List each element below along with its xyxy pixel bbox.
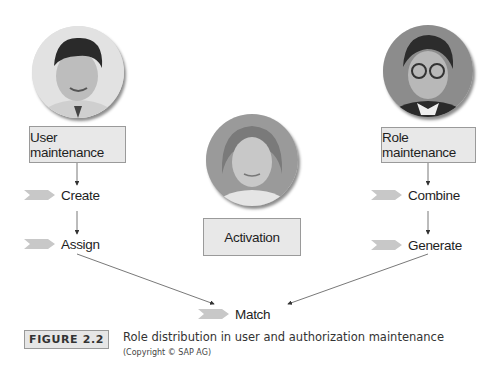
step-generate-label: Generate	[408, 238, 462, 253]
step-assign: Assign	[24, 235, 100, 253]
step-generate: Generate	[371, 236, 462, 254]
figure-number-text: FIGURE 2.2	[29, 333, 104, 346]
chevron-arrow-icon	[24, 239, 55, 249]
step-combine-label: Combine	[408, 188, 460, 203]
role-admin-avatar	[383, 25, 473, 117]
chevron-arrow-icon	[24, 190, 55, 200]
step-combine: Combine	[371, 186, 460, 204]
step-match-label: Match	[235, 307, 270, 322]
chevron-arrow-icon	[198, 309, 229, 319]
role-maintenance-label: Role maintenance	[382, 130, 475, 160]
person-photo-icon	[206, 114, 298, 206]
user-maintenance-box: User maintenance	[29, 126, 126, 163]
figure-copyright: (Copyright © SAP AG)	[123, 348, 211, 357]
person-photo-icon	[383, 25, 473, 117]
chevron-arrow-icon	[371, 240, 402, 250]
step-create: Create	[24, 186, 100, 204]
figure-caption: Role distribution in user and authorizat…	[123, 330, 444, 344]
step-match: Match	[198, 305, 270, 323]
chevron-arrow-icon	[371, 190, 402, 200]
user-admin-avatar	[32, 26, 124, 118]
user-maintenance-label: User maintenance	[30, 130, 125, 160]
activation-label: Activation	[224, 230, 280, 245]
person-photo-icon	[32, 26, 124, 118]
step-create-label: Create	[61, 188, 100, 203]
activation-admin-avatar	[206, 114, 298, 206]
figure-number-label: FIGURE 2.2	[24, 330, 109, 349]
activation-box: Activation	[203, 218, 301, 256]
step-assign-label: Assign	[61, 237, 100, 252]
role-maintenance-box: Role maintenance	[381, 127, 476, 163]
